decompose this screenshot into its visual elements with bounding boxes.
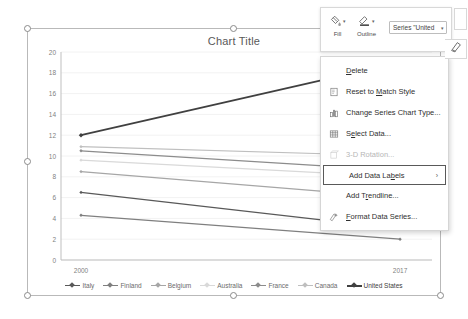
legend-item-italy[interactable]: Italy — [65, 282, 94, 289]
legend-label: Australia — [217, 282, 242, 289]
cube-3d-icon — [325, 148, 343, 162]
legend-item-united-states[interactable]: United States — [347, 282, 403, 289]
fill-label: Fill — [334, 31, 342, 37]
legend-item-belgium[interactable]: Belgium — [151, 282, 191, 289]
y-axis-tick-label: 12 — [49, 132, 57, 139]
menu-item-label: 3-D Rotation... — [343, 150, 394, 159]
menu-item-label: Add Data Labels — [346, 171, 404, 180]
submenu-arrow-icon: › — [436, 172, 438, 179]
legend-label: Italy — [82, 282, 94, 289]
selection-handle-top-left[interactable] — [24, 25, 31, 32]
data-point-marker[interactable] — [79, 191, 82, 194]
selection-handle-bottom-right[interactable] — [437, 292, 444, 299]
legend-marker-icon — [103, 282, 118, 289]
y-axis-tick-label: 0 — [52, 257, 56, 264]
y-axis-tick-label: 8 — [52, 173, 56, 180]
chevron-down-icon[interactable]: ▾ — [441, 25, 444, 31]
legend-label: France — [268, 282, 288, 289]
menu-item-label: Format Data Series... — [343, 212, 417, 221]
legend-label: Belgium — [168, 282, 191, 289]
y-axis-tick-label: 2 — [52, 236, 56, 243]
y-axis-tick-label: 6 — [52, 194, 56, 201]
y-axis-tick-label: 4 — [52, 215, 56, 222]
series-select[interactable]: Series "United ▾ — [389, 21, 447, 34]
fill-bucket-icon: ▾ — [329, 13, 346, 30]
mini-toolbar-overflow[interactable] — [454, 8, 467, 30]
menu-item-label: Select Data... — [343, 129, 391, 138]
y-axis-tick-label: 14 — [49, 111, 57, 118]
y-axis-tick-label: 16 — [49, 90, 57, 97]
reset-style-icon — [325, 85, 343, 99]
y-axis-tick-label: 20 — [49, 49, 57, 56]
selection-handle-top-center[interactable] — [230, 25, 237, 32]
legend-item-canada[interactable]: Canada — [298, 282, 338, 289]
chart-legend[interactable]: ItalyFinlandBelgiumAustraliaFranceCanada… — [28, 282, 440, 289]
outline-dropdown-caret[interactable]: ▾ — [372, 19, 375, 24]
menu-item-label: Delete — [343, 66, 368, 75]
menu-item-add-trendline[interactable]: Add Trendline... — [321, 185, 448, 206]
legend-label: United States — [364, 282, 403, 289]
data-point-marker[interactable] — [79, 158, 82, 161]
slide-canvas: Chart Title 0246810121416182020002017 It… — [0, 0, 468, 319]
outline-button[interactable]: ▾ Outline — [357, 13, 376, 37]
series-select-value: Series "United — [393, 24, 434, 31]
selection-handle-middle-left[interactable] — [24, 158, 31, 165]
menu-item-label: Change Series Chart Type... — [343, 108, 441, 117]
legend-item-france[interactable]: France — [251, 282, 288, 289]
chart-styles-brush-icon — [449, 40, 463, 58]
fill-dropdown-caret[interactable]: ▾ — [343, 19, 346, 24]
x-axis-tick-label: 2000 — [74, 267, 89, 274]
legend-marker-icon — [200, 282, 215, 289]
y-axis-tick-label: 18 — [49, 69, 57, 76]
context-menu[interactable]: DeleteReset to Match StyleChange Series … — [320, 56, 449, 231]
legend-item-finland[interactable]: Finland — [103, 282, 141, 289]
data-point-marker[interactable] — [79, 145, 82, 148]
menu-item-select-data[interactable]: Select Data... — [321, 123, 448, 144]
data-point-marker[interactable] — [79, 149, 82, 152]
legend-marker-icon — [151, 282, 166, 289]
legend-label: Canada — [315, 282, 338, 289]
legend-marker-icon — [65, 282, 80, 289]
x-axis-tick-label: 2017 — [393, 267, 408, 274]
outline-label: Outline — [357, 31, 376, 37]
select-data-icon — [325, 127, 343, 141]
legend-marker-icon — [251, 282, 266, 289]
data-point-marker[interactable] — [79, 214, 82, 217]
data-point-marker[interactable] — [79, 133, 84, 138]
legend-label: Finland — [120, 282, 141, 289]
menu-item-format-data-series[interactable]: Format Data Series... — [321, 206, 448, 227]
bar-chart-icon — [325, 106, 343, 120]
legend-item-australia[interactable]: Australia — [200, 282, 242, 289]
data-point-marker[interactable] — [79, 170, 82, 173]
format-series-icon — [325, 210, 343, 224]
fill-button[interactable]: ▾ Fill — [329, 13, 346, 37]
outline-pen-icon: ▾ — [358, 13, 375, 30]
menu-item-no-icon — [328, 168, 346, 182]
data-point-marker[interactable] — [398, 238, 401, 241]
menu-item-3-d-rotation: 3-D Rotation... — [321, 144, 448, 165]
menu-item-no-icon — [325, 189, 343, 203]
menu-item-reset-to-match-style[interactable]: Reset to Match Style — [321, 81, 448, 102]
y-axis-tick-label: 10 — [49, 153, 57, 160]
menu-item-change-series-chart-type[interactable]: Change Series Chart Type... — [321, 102, 448, 123]
menu-item-label: Add Trendline... — [343, 191, 399, 200]
menu-item-no-icon — [325, 64, 343, 78]
mini-toolbar[interactable]: ▾ Fill ▾ Outline Series "United ▾ — [320, 7, 452, 52]
selection-handle-bottom-left[interactable] — [24, 292, 31, 299]
legend-marker-icon — [298, 282, 313, 289]
chart-styles-button[interactable] — [445, 39, 467, 59]
menu-item-delete[interactable]: Delete — [321, 60, 448, 81]
menu-item-label: Reset to Match Style — [343, 87, 415, 96]
selection-handle-bottom-center[interactable] — [230, 292, 237, 299]
legend-marker-icon — [347, 282, 362, 289]
menu-item-add-data-labels[interactable]: Add Data Labels› — [323, 165, 446, 185]
